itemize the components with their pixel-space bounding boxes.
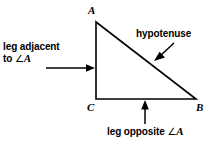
label-leg-adjacent-line2-prefix: to	[3, 53, 15, 64]
vertex-label-a: A	[88, 5, 95, 16]
label-hypotenuse: hypotenuse	[136, 28, 191, 40]
adjacent-arrow-head	[86, 64, 95, 72]
vertex-label-c: C	[87, 102, 94, 113]
opposite-arrow-head	[141, 100, 149, 110]
angle-symbol-icon: ∠	[167, 126, 176, 137]
label-leg-adjacent-line1: leg adjacent	[3, 41, 60, 53]
label-leg-adjacent: leg adjacent to ∠A	[3, 41, 60, 64]
geometry-figure: leg adjacent to ∠A hypotenuse leg opposi…	[0, 0, 210, 145]
label-leg-opposite: leg opposite ∠A	[107, 126, 184, 138]
opposite-arrow	[141, 100, 149, 124]
hypotenuse-arrow-shaft	[160, 43, 174, 56]
vertex-label-b: B	[196, 102, 203, 113]
angle-symbol-icon: ∠	[15, 53, 24, 64]
label-leg-opposite-prefix: leg opposite	[107, 126, 167, 137]
angle-vertex-letter: A	[176, 125, 183, 137]
hypotenuse-arrow	[154, 43, 174, 61]
label-leg-adjacent-line2: to ∠A	[3, 53, 60, 65]
angle-vertex-letter: A	[24, 52, 31, 64]
adjacent-arrow	[46, 64, 95, 72]
triangle-diagram-svg	[0, 0, 210, 145]
